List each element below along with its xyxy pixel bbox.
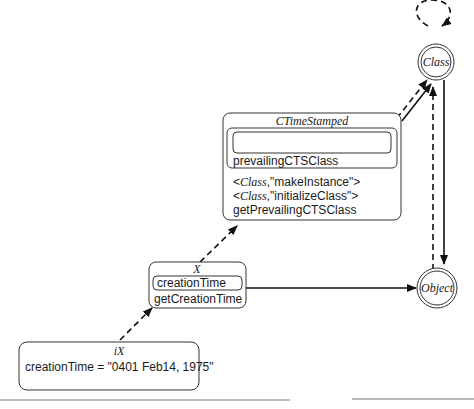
x-slot-label: creationTime: [157, 276, 226, 290]
ix-to-x-dashed-edge: [120, 308, 152, 340]
x-node[interactable]: X creationTime getCreationTime: [149, 262, 246, 308]
ctimestamped-method-get-prevailing: getPrevailingCTSClass: [233, 203, 356, 217]
ctimestamped-to-class-dashed-edge: [397, 80, 427, 118]
ctimestamped-node[interactable]: CTimeStamped prevailingCTSClass <Class,"…: [223, 113, 401, 220]
class-diagram: Class Object CTimeStamped prevailingCTSC…: [0, 0, 474, 409]
class-node[interactable]: Class: [418, 44, 454, 80]
ix-value-label: creationTime = "0401 Feb14, 1975": [25, 360, 214, 374]
ix-title: iX: [114, 344, 125, 358]
ctimestamped-title: CTimeStamped: [276, 114, 350, 128]
ctimestamped-method-make-instance: <Class,"makeInstance">: [233, 175, 360, 189]
x-method-label: getCreationTime: [154, 292, 243, 306]
object-node[interactable]: Object: [417, 268, 457, 308]
ctimestamped-method-initialize-class: <Class,"initializeClass">: [233, 189, 358, 203]
ix-node[interactable]: iX creationTime = "0401 Feb14, 1975": [19, 342, 214, 390]
class-self-loop-edge: [416, 0, 450, 26]
x-to-ctimestamped-dashed-edge: [200, 226, 237, 262]
class-label: Class: [423, 55, 450, 69]
ctimestamped-slot-label: prevailingCTSClass: [233, 154, 338, 168]
ctimestamped-empty-slot: [233, 132, 391, 153]
ctimestamped-to-class-solid-edge: [402, 84, 431, 121]
x-title: X: [192, 262, 201, 276]
object-label: Object: [421, 281, 454, 295]
